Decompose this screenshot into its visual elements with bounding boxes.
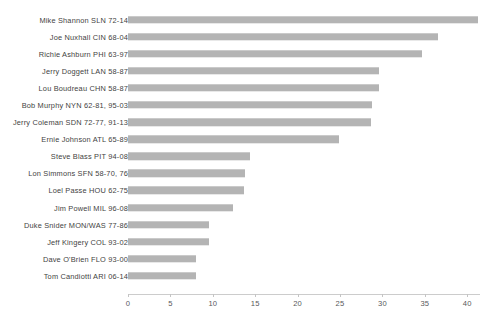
- bar-category-label: Mike Shannon SLN 72-14: [39, 15, 128, 24]
- x-axis-tick-label: 15: [251, 299, 260, 308]
- bar-track: [128, 118, 483, 125]
- bar: [128, 50, 422, 57]
- bar: [128, 238, 209, 245]
- bar-row: Jerry Coleman SDN 72-77, 91-13: [0, 114, 487, 131]
- bar-track: [128, 187, 483, 194]
- x-axis-tick-label: 10: [208, 299, 217, 308]
- bar-track: [128, 255, 483, 262]
- bar: [128, 118, 371, 125]
- bar-track: [128, 136, 483, 143]
- x-axis-tick: [255, 294, 256, 297]
- bar: [128, 84, 379, 91]
- x-axis-tick-label: 25: [336, 299, 345, 308]
- bar-category-label: Loel Passe HOU 62-75: [48, 186, 128, 195]
- bar-category-label: Dave O'Brien FLO 93-00: [43, 254, 128, 263]
- bar-row: Tom Candiotti ARI 06-14: [0, 267, 487, 284]
- bar-row: Joe Nuxhall CIN 68-04: [0, 28, 487, 45]
- bar: [128, 187, 244, 194]
- bar-track: [128, 33, 483, 40]
- bar-category-label: Lou Boudreau CHN 58-87: [39, 83, 128, 92]
- x-axis-tick: [213, 294, 214, 297]
- bar-row: Steve Blass PIT 94-08: [0, 148, 487, 165]
- x-axis-tick-label: 20: [293, 299, 302, 308]
- bar: [128, 153, 250, 160]
- plot-area: Mike Shannon SLN 72-14Joe Nuxhall CIN 68…: [0, 0, 487, 315]
- bar-track: [128, 50, 483, 57]
- bar-track: [128, 84, 483, 91]
- x-axis-tick: [425, 294, 426, 297]
- bar-category-label: Jeff Kingery COL 93-02: [47, 237, 128, 246]
- bar-category-label: Jim Powell MIL 96-08: [54, 203, 128, 212]
- bar: [128, 255, 196, 262]
- x-axis-tick: [170, 294, 171, 297]
- bar-category-label: Steve Blass PIT 94-08: [51, 152, 128, 161]
- x-axis-tick: [382, 294, 383, 297]
- bar-track: [128, 16, 483, 23]
- bar-track: [128, 204, 483, 211]
- x-axis-tick-label: 40: [463, 299, 472, 308]
- x-axis-tick: [467, 294, 468, 297]
- bar-row: Jerry Doggett LAN 58-87: [0, 62, 487, 79]
- bar: [128, 136, 339, 143]
- bar-row: Jim Powell MIL 96-08: [0, 199, 487, 216]
- bar: [128, 101, 372, 108]
- bar-track: [128, 101, 483, 108]
- bar-row: Ernie Johnson ATL 65-89: [0, 131, 487, 148]
- x-axis-tick-label: 5: [168, 299, 172, 308]
- bar-category-label: Jerry Doggett LAN 58-87: [42, 66, 128, 75]
- bar-track: [128, 170, 483, 177]
- bar-category-label: Bob Murphy NYN 62-81, 95-03: [22, 101, 128, 110]
- x-axis-line: [128, 294, 480, 295]
- bar: [128, 204, 233, 211]
- bar-row: Loel Passe HOU 62-75: [0, 182, 487, 199]
- bar: [128, 16, 478, 23]
- bar-track: [128, 238, 483, 245]
- bar: [128, 170, 245, 177]
- bar-row: Jeff Kingery COL 93-02: [0, 233, 487, 250]
- bar-category-label: Tom Candiotti ARI 06-14: [44, 271, 128, 280]
- bar-track: [128, 67, 483, 74]
- x-axis-tick-label: 0: [126, 299, 130, 308]
- x-axis-tick: [340, 294, 341, 297]
- bar-row: Lou Boudreau CHN 58-87: [0, 79, 487, 96]
- bar-category-label: Joe Nuxhall CIN 68-04: [50, 32, 128, 41]
- bar-category-label: Richie Ashburn PHI 63-97: [39, 49, 128, 58]
- x-axis-tick: [128, 294, 129, 297]
- x-axis-tick-label: 35: [420, 299, 429, 308]
- bar-category-label: Lon Simmons SFN 58-70, 76: [28, 169, 128, 178]
- bar-track: [128, 153, 483, 160]
- bar-row: Dave O'Brien FLO 93-00: [0, 250, 487, 267]
- bar-row: Bob Murphy NYN 62-81, 95-03: [0, 96, 487, 113]
- bar-track: [128, 272, 483, 279]
- bar-row: Duke Snider MON/WAS 77-86: [0, 216, 487, 233]
- bar-rows: Mike Shannon SLN 72-14Joe Nuxhall CIN 68…: [0, 11, 487, 285]
- bar-row: Richie Ashburn PHI 63-97: [0, 45, 487, 62]
- bar-row: Mike Shannon SLN 72-14: [0, 11, 487, 28]
- bar-category-label: Jerry Coleman SDN 72-77, 91-13: [13, 118, 128, 127]
- bar-row: Lon Simmons SFN 58-70, 76: [0, 165, 487, 182]
- bar-category-label: Ernie Johnson ATL 65-89: [41, 135, 128, 144]
- x-axis-tick-label: 30: [378, 299, 387, 308]
- bar: [128, 272, 196, 279]
- bar: [128, 67, 379, 74]
- bar: [128, 33, 438, 40]
- bar-chart: Mike Shannon SLN 72-14Joe Nuxhall CIN 68…: [0, 0, 487, 315]
- bar: [128, 221, 209, 228]
- x-axis-tick: [298, 294, 299, 297]
- bar-category-label: Duke Snider MON/WAS 77-86: [24, 220, 128, 229]
- bar-track: [128, 221, 483, 228]
